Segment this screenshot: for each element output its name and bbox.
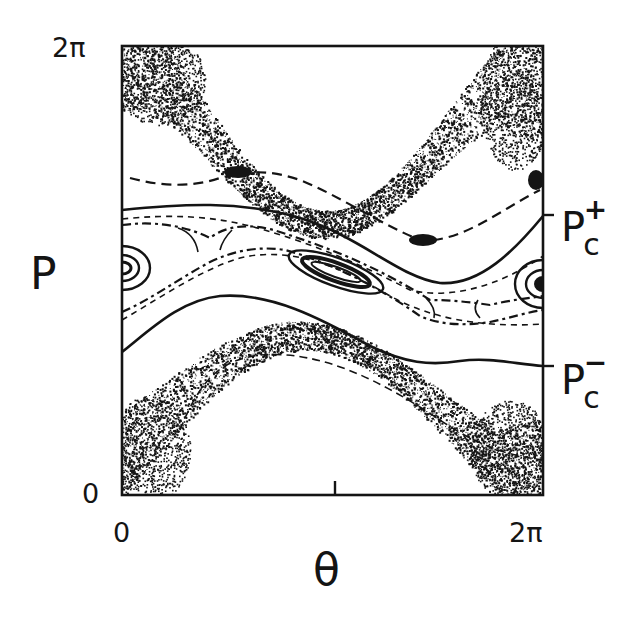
pc-plus-sup: + <box>584 193 607 226</box>
knot-upper-left <box>224 166 252 178</box>
lower-dashed-inner <box>180 354 543 460</box>
y-max-label: 2π <box>52 34 85 61</box>
pc-minus-sub: c <box>583 380 600 415</box>
pc-minus-annotation: Pc− <box>561 349 607 413</box>
x-max-label: 2π <box>509 519 542 546</box>
knot-upper-mid <box>409 234 437 246</box>
plot-area <box>94 7 571 506</box>
pc-minus-sup: − <box>584 346 607 379</box>
y-min-label: 0 <box>82 480 99 507</box>
lower-kam-curve <box>122 296 543 366</box>
chaotic-sea-dots <box>111 7 552 506</box>
knot-upper-right <box>528 170 544 190</box>
x-point-left <box>178 228 232 252</box>
pc-plus-annotation: Pc+ <box>561 196 607 260</box>
upper-separatrix <box>122 223 543 305</box>
y-axis-title: P <box>30 252 57 296</box>
x-min-label: 0 <box>113 519 130 546</box>
x-point-right <box>426 298 480 318</box>
x-axis-title: θ <box>313 548 340 592</box>
upper-kam-curve <box>122 205 543 283</box>
pc-plus-base: P <box>561 204 585 250</box>
pc-minus-base: P <box>561 357 585 403</box>
pc-plus-sub: c <box>583 227 600 262</box>
